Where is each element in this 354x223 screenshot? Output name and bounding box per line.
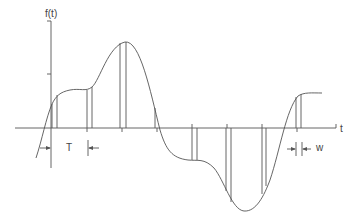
aperture-label: w (316, 143, 323, 153)
sample-lines (52, 42, 301, 202)
x-axis-label: t (340, 124, 343, 134)
aperture-marker (287, 142, 311, 156)
signal-curve (36, 42, 322, 211)
diagram-canvas (0, 0, 354, 223)
period-label: T (66, 143, 72, 153)
y-axis-label: f(t) (45, 9, 57, 19)
sampling-diagram: f(t) t T w (0, 0, 354, 223)
